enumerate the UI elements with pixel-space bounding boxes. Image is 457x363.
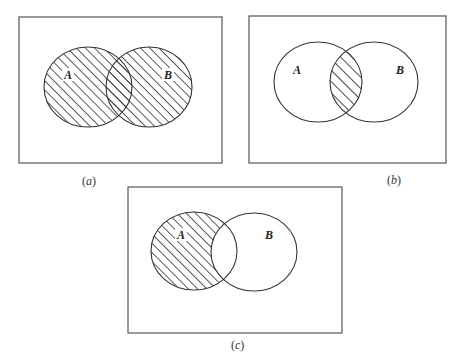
set-label-B: B: [264, 228, 273, 242]
panel-b: A B (b): [249, 16, 446, 187]
set-label-A: A: [176, 228, 185, 242]
caption-c: (c): [231, 338, 244, 352]
set-circle-B: [211, 213, 297, 291]
panel-c: A B (c): [128, 187, 342, 352]
set-label-B: B: [163, 68, 172, 82]
set-label-B: B: [395, 63, 404, 77]
caption-b: (b): [387, 173, 401, 187]
set-label-A: A: [63, 68, 72, 82]
venn-figure: A B (a) A B (b) A B (c): [0, 0, 457, 363]
set-label-A: A: [292, 63, 301, 77]
panel-a: A B (a): [19, 17, 222, 188]
caption-a: (a): [82, 174, 96, 188]
